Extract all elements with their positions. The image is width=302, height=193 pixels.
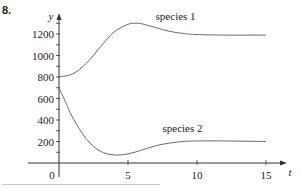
series-line-1 (59, 23, 266, 77)
y-axis-label: y (48, 10, 54, 22)
x-tick-label: 10 (192, 169, 204, 181)
line-chart: 20040060080010001200051015ytspecies 1spe… (0, 0, 302, 193)
axes (28, 13, 287, 177)
y-tick-label: 200 (38, 136, 55, 148)
x-tick-label: 5 (125, 169, 131, 181)
labels: 20040060080010001200051015ytspecies 1spe… (32, 10, 292, 181)
y-tick-label: 1000 (32, 50, 55, 62)
y-tick-label: 1200 (32, 28, 55, 40)
x-axis-label: t (288, 166, 292, 178)
curves (59, 23, 266, 155)
series-label-1: species 1 (156, 10, 196, 22)
x-tick-label: 15 (261, 169, 273, 181)
series-label-2: species 2 (163, 122, 203, 134)
y-axis-arrow-icon (57, 13, 62, 20)
y-tick-label: 400 (38, 114, 55, 126)
divider-line (2, 184, 160, 185)
y-tick-label: 600 (38, 93, 55, 105)
origin-label: 0 (49, 169, 55, 181)
x-axis-arrow-icon (280, 161, 287, 166)
y-tick-label: 800 (38, 71, 55, 83)
